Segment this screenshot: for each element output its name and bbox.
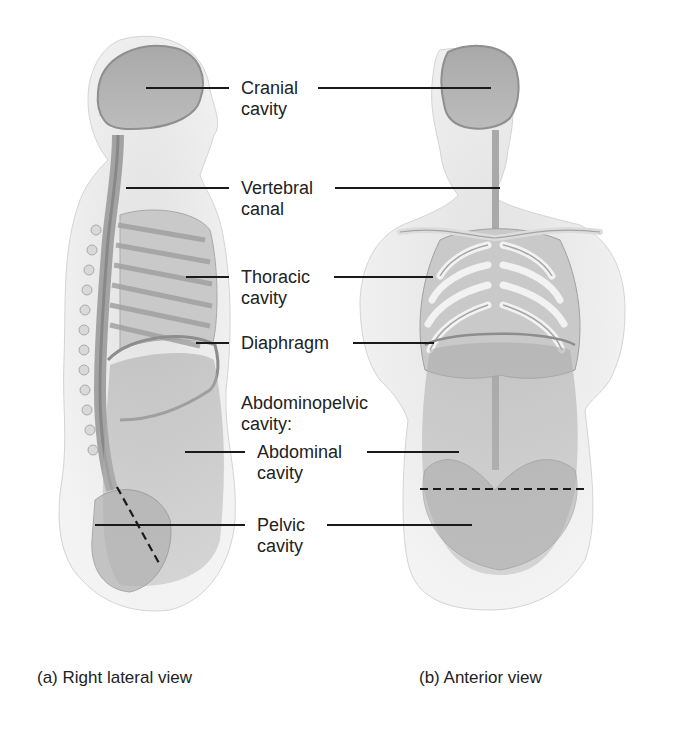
label-cranial-line2: cavity: [241, 99, 298, 120]
label-cranial-line1: Cranial: [241, 78, 298, 99]
label-vertebral-line2: canal: [241, 199, 313, 220]
label-thoracic-cavity: Thoracic cavity: [241, 267, 310, 309]
label-abdominopelvic-cavity: Abdominopelvic cavity:: [241, 393, 368, 435]
label-pelvic-cavity: Pelvic cavity: [257, 515, 305, 557]
label-abdominal-cavity: Abdominal cavity: [257, 442, 342, 484]
label-pelvic-line1: Pelvic: [257, 515, 305, 536]
label-thoracic-line2: cavity: [241, 288, 310, 309]
label-diaphragm-line1: Diaphragm: [241, 333, 329, 354]
label-diaphragm: Diaphragm: [241, 333, 329, 354]
label-pelvic-line2: cavity: [257, 536, 305, 557]
anatomy-illustration: [0, 0, 698, 732]
label-thoracic-line1: Thoracic: [241, 267, 310, 288]
label-cranial-cavity: Cranial cavity: [241, 78, 298, 120]
body-cavities-diagram: Cranial cavity Vertebral canal Thoracic …: [0, 0, 698, 732]
label-abdominopelvic-line1: Abdominopelvic: [241, 393, 368, 414]
label-abdominal-line2: cavity: [257, 463, 342, 484]
label-vertebral-line1: Vertebral: [241, 178, 313, 199]
label-abdominal-line1: Abdominal: [257, 442, 342, 463]
caption-right-lateral-view: (a) Right lateral view: [37, 668, 192, 688]
label-vertebral-canal: Vertebral canal: [241, 178, 313, 220]
caption-anterior-view: (b) Anterior view: [419, 668, 542, 688]
label-abdominopelvic-line2: cavity:: [241, 414, 368, 435]
